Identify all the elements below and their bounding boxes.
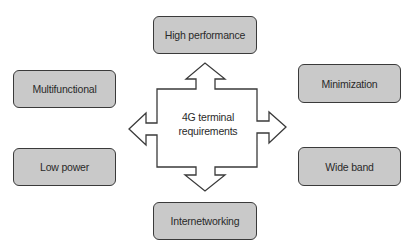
node-high-performance: High performance [153,16,257,54]
node-internetworking: Internetworking [153,202,257,240]
node-wide-band: Wide band [298,147,401,186]
node-minimization: Minimization [298,64,401,103]
node-low-power: Low power [13,148,116,186]
center-label-line1: 4G terminal [160,110,256,124]
center-label: 4G terminal requirements [160,110,256,138]
node-multifunctional: Multifunctional [13,70,116,108]
center-label-line2: requirements [160,124,256,138]
